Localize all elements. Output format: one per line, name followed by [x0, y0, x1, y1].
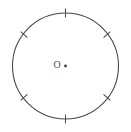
circle-diagram-canvas: O	[0, 0, 131, 132]
center-point-label: O	[53, 59, 60, 70]
center-point-dot	[64, 65, 67, 68]
circle-diagram-svg: O	[0, 0, 131, 132]
